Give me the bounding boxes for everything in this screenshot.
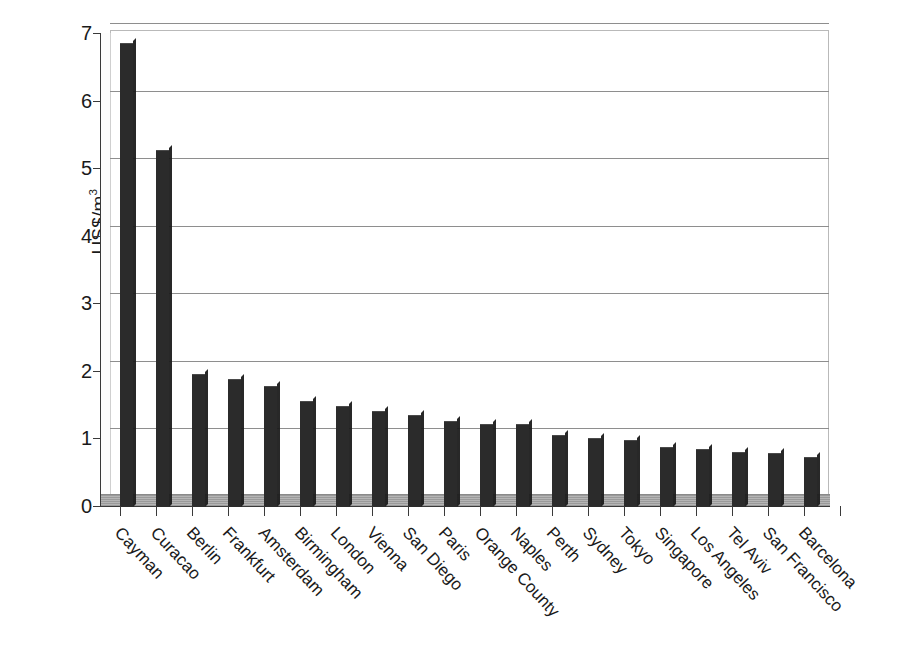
bar: [660, 447, 673, 507]
x-tick-mark: [768, 506, 769, 516]
bar: [768, 453, 781, 507]
x-axis-line: [100, 506, 830, 507]
x-tick-mark: [156, 506, 157, 516]
x-tick-mark: [624, 506, 625, 516]
x-tick-mark: [480, 506, 481, 516]
bar: [336, 406, 349, 507]
gridline: [110, 428, 829, 429]
plot-left-wall: [100, 33, 111, 506]
plot-back-wall: [110, 30, 829, 500]
bar: [192, 374, 205, 507]
x-tick-mark: [696, 506, 697, 516]
bar: [444, 421, 457, 507]
gridline: [110, 158, 829, 159]
bar: [804, 457, 817, 507]
y-tick-label: 4: [81, 226, 92, 246]
bar-chart-figure: US$/m3 01234567 CaymanCuracaoBerlinFrank…: [0, 0, 910, 645]
y-axis-line: [100, 33, 101, 506]
x-tick-mark: [732, 506, 733, 516]
x-tick-mark: [516, 506, 517, 516]
y-tick-label: 0: [81, 496, 92, 516]
x-tick-mark: [192, 506, 193, 516]
bar: [588, 438, 601, 507]
x-tick-mark: [588, 506, 589, 516]
x-tick-mark: [840, 506, 841, 516]
bar: [300, 401, 313, 507]
y-tick-label: 7: [81, 23, 92, 43]
bar: [696, 449, 709, 507]
bar: [516, 424, 529, 507]
bar: [228, 379, 241, 507]
x-tick-mark: [804, 506, 805, 516]
gridline: [110, 23, 829, 24]
y-tick-label: 3: [81, 293, 92, 313]
x-tick-mark: [336, 506, 337, 516]
x-tick-mark: [660, 506, 661, 516]
gridline: [110, 293, 829, 294]
bar: [552, 435, 565, 507]
x-tick-mark: [264, 506, 265, 516]
x-tick-mark: [228, 506, 229, 516]
x-tick-mark: [120, 506, 121, 516]
bar: [480, 424, 493, 507]
bar: [156, 150, 169, 507]
bar: [372, 411, 385, 507]
y-tick-label: 5: [81, 158, 92, 178]
x-tick-mark: [552, 506, 553, 516]
y-axis-title-superscript: 3: [86, 189, 99, 196]
y-tick-label: 2: [81, 361, 92, 381]
bar: [264, 386, 277, 507]
x-tick-mark: [408, 506, 409, 516]
bar: [624, 440, 637, 507]
x-tick-mark: [300, 506, 301, 516]
bar: [732, 452, 745, 507]
x-tick-mark: [444, 506, 445, 516]
y-tick-label: 1: [81, 428, 92, 448]
gridline: [110, 91, 829, 92]
bar: [408, 415, 421, 507]
plot-floor: [100, 495, 830, 506]
gridline: [110, 361, 829, 362]
gridline: [110, 226, 829, 227]
plot-area: 01234567 CaymanCuracaoBerlinFrankfurtAms…: [100, 30, 830, 508]
y-tick-label: 6: [81, 91, 92, 111]
x-tick-mark: [372, 506, 373, 516]
bar: [120, 43, 133, 507]
plot-floor-edge: [100, 494, 830, 495]
